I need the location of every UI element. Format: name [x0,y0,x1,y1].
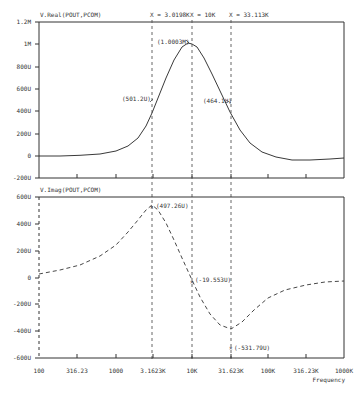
lower-marker-x: × [150,203,154,210]
lower-plot: 600U 400U 200U 0 -200U -400U -600U V.Ima… [13,186,344,361]
x-axis-labels: 100 316.23 1000 3.1623K 10K 31.623K 100K… [34,367,354,384]
lower-marker-x: × [229,344,233,351]
upper-y-ticks: 1.2M 1M 800U 600U 400U 200U 0 -200U [13,18,39,181]
lower-trace-imag [39,205,344,329]
lower-x-ticks [77,354,306,358]
xtick-label: 3.1623K [140,367,166,374]
x-axis-title: Frequency [312,376,345,384]
upper-ytick-label: 200U [17,130,32,137]
lower-ytick-label: -600U [13,354,31,361]
cursor-label-1: X = 3.0198K [150,11,190,18]
upper-marker-label: (464.1U) [203,97,232,104]
xtick-label: 31.623K [218,367,244,374]
upper-ytick-label: -200U [13,174,31,181]
bode-plot: 1.2M 1M 800U 600U 400U 200U 0 -200U V.Re… [0,0,364,393]
upper-ytick-label: 800U [17,63,32,70]
lower-ytick-label: -400U [13,327,31,334]
lower-ytick-label: 600U [17,193,32,200]
xtick-label: 1000 [109,367,124,374]
lower-ytick-label: 200U [17,247,32,254]
xtick-label: 10K [187,367,198,374]
xtick-label: 1000K [335,367,353,374]
xtick-label: 316.23K [293,367,319,374]
xtick-label: 316.23 [66,367,88,374]
lower-marker-x: × [190,278,194,285]
cursor-label-3: X = 33.113K [229,11,269,18]
cursor-labels: X = 3.0198K X = 10K X = 33.113K [150,11,269,18]
upper-x-ticks [77,174,306,178]
upper-trace-real [39,43,344,160]
lower-y-ticks: 600U 400U 200U 0 -200U -400U -600U [13,193,39,361]
upper-ytick-label: 0 [27,152,31,159]
upper-ytick-label: 400U [17,107,32,114]
lower-ytick-label: -200U [13,300,31,307]
lower-marker-label: (-19.553U) [195,276,231,283]
upper-marker-label: (501.2U) [122,95,151,102]
upper-plot: 1.2M 1M 800U 600U 400U 200U 0 -200U V.Re… [13,11,344,181]
upper-ytick-label: 600U [17,85,32,92]
xtick-label: 100K [261,367,276,374]
lower-ytick-label: 400U [17,220,32,227]
cursor-lines[interactable] [152,20,231,362]
lower-ytick-label: 0 [27,274,31,281]
upper-trace-title: V.Real(POUT,PCOM) [40,11,101,18]
lower-trace-title: V.Imag(POUT,PCOM) [40,186,101,194]
xtick-label: 100 [34,367,45,374]
upper-marker-label: (1.0003M) [157,38,190,45]
upper-ytick-label: 1M [24,40,32,47]
lower-marker-label: (497.26U) [156,202,189,209]
cursor-label-2: X = 10K [190,11,216,18]
lower-marker-label: (-531.79U) [234,344,270,351]
upper-ytick-label: 1.2M [17,18,32,25]
